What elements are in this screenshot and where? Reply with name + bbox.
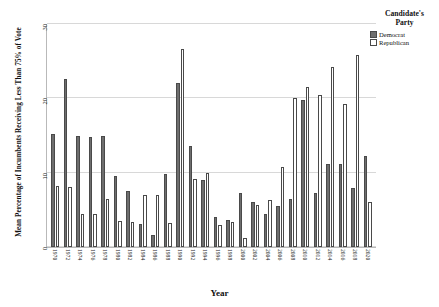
bar-group: 1976 [87, 24, 100, 247]
bar-republican [243, 238, 247, 247]
x-axis-tick-label: 1974 [77, 249, 83, 260]
bar-democrat [339, 164, 343, 247]
bar-democrat [314, 193, 318, 247]
bar-group: 2010 [299, 24, 312, 247]
bar-democrat [226, 220, 230, 247]
x-axis-tick-label: 1986 [152, 249, 158, 260]
x-axis-tick-label: 1988 [165, 249, 171, 260]
x-axis-tick-label: 1976 [90, 249, 96, 260]
legend-item-dem: Democrat [370, 31, 439, 38]
bar-group: 1988 [162, 24, 175, 247]
bar-republican [156, 195, 160, 247]
bar-democrat [264, 214, 268, 247]
bar-republican [268, 200, 272, 247]
bar-republican [356, 55, 360, 247]
bar-democrat [251, 202, 255, 247]
x-axis-tick-label: 1970 [52, 249, 58, 260]
bar-republican [206, 173, 210, 247]
x-axis-tick-label: 2014 [327, 249, 333, 260]
bar-republican [331, 67, 335, 247]
bar-republican [168, 223, 172, 247]
x-axis-tick-label: 2004 [265, 249, 271, 260]
bar-group: 1996 [212, 24, 225, 247]
x-axis-tick-label: 2012 [315, 249, 321, 260]
legend-swatch-dem [370, 31, 377, 38]
x-axis-tick-label: 2010 [302, 249, 308, 260]
plot-area: 0102030 19701972197419761978198019821984… [46, 24, 376, 248]
bar-group: 1998 [224, 24, 237, 247]
bar-group: 2006 [274, 24, 287, 247]
bar-group: 1980 [112, 24, 125, 247]
legend: Candidate's Party DemocratRepublican [370, 10, 439, 46]
bar-group: 1978 [99, 24, 112, 247]
bar-democrat [139, 224, 143, 247]
x-axis-tick-label: 2016 [340, 249, 346, 260]
legend-title-line-2: Party [370, 19, 439, 28]
bar-group: 1972 [62, 24, 75, 247]
legend-item-rep: Republican [370, 39, 439, 46]
bar-democrat [76, 136, 80, 247]
bar-republican [368, 202, 372, 247]
legend-entries: DemocratRepublican [370, 31, 439, 46]
x-axis-tick-label: 2018 [352, 249, 358, 260]
x-axis-tick-label: 1994 [202, 249, 208, 260]
bar-group: 2002 [249, 24, 262, 247]
bar-democrat [114, 176, 118, 247]
bar-democrat [351, 188, 355, 247]
bar-group: 2016 [337, 24, 350, 247]
bar-republican [318, 95, 322, 247]
bar-group: 2000 [237, 24, 250, 247]
bar-democrat [214, 217, 218, 247]
x-axis-title: Year [0, 288, 439, 298]
x-axis-tick-label: 1996 [215, 249, 221, 260]
x-axis-tick-label: 1982 [127, 249, 133, 260]
bar-group: 2012 [312, 24, 325, 247]
bar-group: 2020 [362, 24, 375, 247]
bar-democrat [189, 146, 193, 247]
legend-title: Candidate's Party [370, 10, 439, 27]
bar-democrat [301, 100, 305, 247]
bar-republican [131, 222, 135, 247]
bar-republican [81, 214, 85, 247]
bar-democrat [101, 136, 105, 247]
bar-democrat [176, 83, 180, 247]
x-axis-tick-label: 2008 [290, 249, 296, 260]
x-axis-tick-label: 1992 [190, 249, 196, 260]
bar-democrat [239, 193, 243, 247]
bar-group: 1994 [199, 24, 212, 247]
bar-democrat [276, 206, 280, 247]
bar-republican [106, 199, 110, 247]
bar-republican [118, 221, 122, 247]
y-axis-tick-label: 0 [41, 247, 48, 250]
bar-republican [56, 186, 60, 247]
bar-republican [306, 87, 310, 247]
bar-group: 2018 [349, 24, 362, 247]
bar-group: 1974 [74, 24, 87, 247]
x-axis-tick-label: 1990 [177, 249, 183, 260]
bar-democrat [364, 156, 368, 247]
bar-democrat [289, 199, 293, 247]
legend-label-rep: Republican [379, 39, 409, 46]
bar-republican [256, 205, 260, 247]
bar-republican [181, 49, 185, 247]
bar-group: 1990 [174, 24, 187, 247]
bar-group: 2008 [287, 24, 300, 247]
bar-republican [293, 98, 297, 247]
bar-republican [281, 167, 285, 247]
x-axis-tick-label: 2002 [252, 249, 258, 260]
x-axis-tick-label: 1998 [227, 249, 233, 260]
bar-group: 1992 [187, 24, 200, 247]
bar-democrat [126, 191, 130, 247]
bar-republican [231, 222, 235, 247]
legend-label-dem: Democrat [379, 31, 405, 38]
bar-democrat [326, 164, 330, 247]
bar-group: 1984 [137, 24, 150, 247]
x-axis-tick-label: 2020 [365, 249, 371, 260]
x-axis-tick-label: 1980 [115, 249, 121, 260]
bar-group: 1970 [49, 24, 62, 247]
bar-republican [343, 104, 347, 247]
bar-republican [143, 195, 147, 247]
bar-group: 1982 [124, 24, 137, 247]
bar-republican [218, 225, 222, 247]
bar-democrat [151, 235, 155, 247]
